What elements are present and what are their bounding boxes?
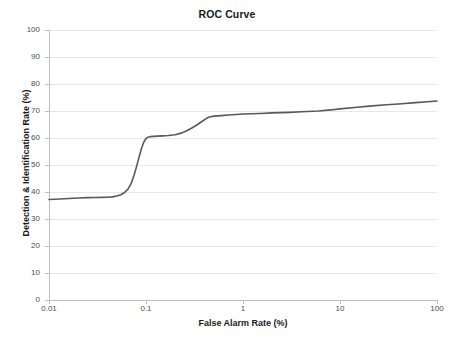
data-series [49, 101, 437, 200]
x-tick-label-1: 1 [223, 304, 263, 313]
series-line-ROC [49, 101, 437, 200]
x-tick-label-100: 100 [417, 304, 454, 313]
y-tick-label-0: 0 [14, 295, 40, 304]
x-tick-label-0.1: 0.1 [126, 304, 166, 313]
gridlines [49, 30, 437, 300]
y-tick-label-10: 10 [14, 268, 40, 277]
tick-marks [45, 30, 437, 304]
y-tick-label-90: 90 [14, 52, 40, 61]
x-axis-title: False Alarm Rate (%) [49, 318, 437, 328]
x-tick-label-0.01: 0.01 [29, 304, 69, 313]
y-axis-title: Detection & Identification Rate (%) [21, 63, 31, 263]
roc-chart: ROC Curve 0102030405060708090100 0.010.1… [0, 0, 454, 341]
y-tick-label-100: 100 [14, 25, 40, 34]
x-tick-label-10: 10 [320, 304, 360, 313]
plot-area [0, 0, 454, 341]
